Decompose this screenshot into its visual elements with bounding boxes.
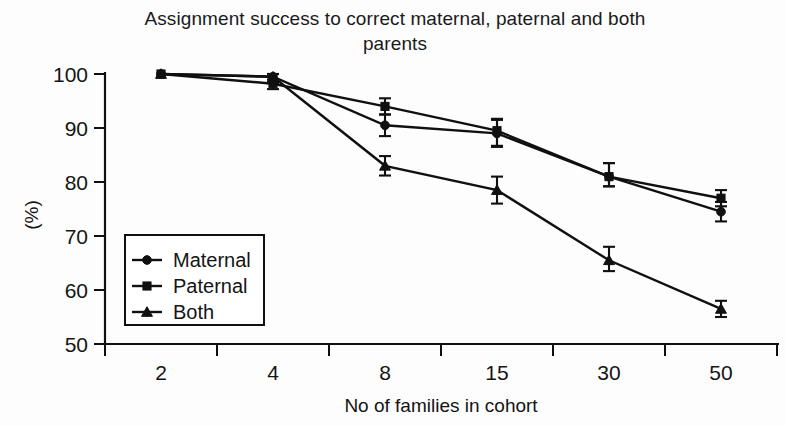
x-tick-label-0: 2	[155, 361, 167, 384]
legend-label-both: Both	[173, 301, 214, 323]
data-point-paternal-30	[605, 173, 613, 181]
y-tick-label-3: 70	[65, 225, 88, 248]
legend-marker-square	[143, 282, 151, 290]
y-axis-ticks	[94, 74, 105, 344]
y-tick-label-1: 90	[65, 117, 88, 140]
data-point-maternal-8	[381, 121, 390, 130]
x-axis-ticks	[105, 344, 777, 356]
x-axis-tick-labels: 2 4 8 15 30 50	[155, 361, 733, 384]
data-point-paternal-50	[717, 194, 725, 202]
series-maternal	[157, 70, 727, 222]
y-tick-label-0: 100	[53, 63, 88, 86]
legend-marker-circle	[143, 256, 152, 265]
legend: MaternalPaternalBoth	[125, 235, 264, 325]
data-point-maternal-50	[717, 207, 726, 216]
plot-area: (%) 100 90 80 70 60 50	[0, 0, 785, 426]
y-axis-title: (%)	[21, 200, 42, 230]
series-line-paternal	[161, 74, 721, 198]
legend-label-paternal: Paternal	[173, 275, 248, 297]
chart-figure: Assignment success to correct maternal, …	[0, 0, 785, 426]
x-tick-label-2: 8	[379, 361, 391, 384]
x-axis-title: No of families in cohort	[344, 395, 538, 416]
legend-label-maternal: Maternal	[173, 249, 251, 271]
series-line-maternal	[161, 74, 721, 212]
y-tick-label-2: 80	[65, 171, 88, 194]
x-tick-label-1: 4	[267, 361, 279, 384]
x-tick-label-3: 15	[485, 361, 508, 384]
data-point-paternal-15	[493, 127, 501, 135]
y-tick-label-5: 50	[65, 333, 88, 356]
y-tick-label-4: 60	[65, 279, 88, 302]
x-tick-label-5: 50	[709, 361, 732, 384]
y-axis-tick-labels: 100 90 80 70 60 50	[53, 63, 88, 356]
x-tick-label-4: 30	[597, 361, 620, 384]
data-point-paternal-8	[381, 102, 389, 110]
